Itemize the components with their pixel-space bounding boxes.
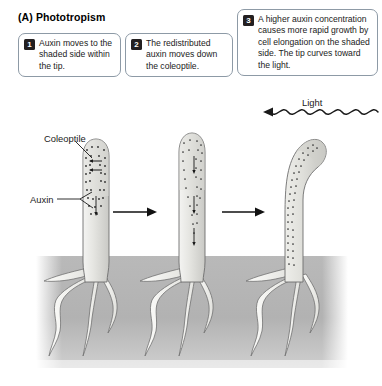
flow-arrow-1	[113, 208, 157, 217]
step-badge-2: 2	[131, 39, 142, 50]
step-text-1: Auxin moves to the shaded side within th…	[39, 38, 115, 72]
step-callout-1: 1 Auxin moves to the shaded side within …	[18, 33, 121, 77]
step-callout-2: 2 The redistributed auxin moves down the…	[125, 33, 233, 77]
step-badge-3: 3	[243, 15, 254, 26]
page-title: (A) Phototropism	[18, 11, 105, 23]
phototropism-figure: (A) Phototropism 1 Auxin moves to the sh…	[0, 0, 382, 386]
step-text-2: The redistributed auxin moves down the c…	[146, 38, 227, 72]
coleoptile-label: Coleoptile	[44, 133, 86, 144]
step-text-3: A higher auxin concentration causes more…	[258, 14, 372, 71]
flow-arrow-2	[222, 208, 265, 217]
step-badge-1: 1	[24, 39, 35, 50]
light-label: Light	[302, 97, 322, 108]
light-wave-icon	[263, 108, 378, 117]
auxin-label: Auxin	[30, 194, 53, 205]
step-callout-3: 3 A higher auxin concentration causes mo…	[237, 9, 378, 76]
